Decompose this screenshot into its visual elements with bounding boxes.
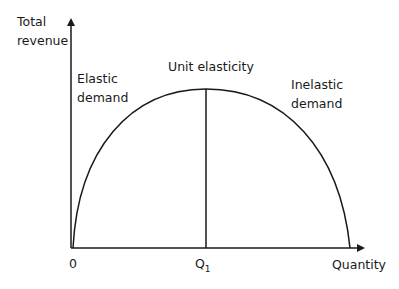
origin-label: 0: [69, 255, 77, 273]
inelastic-label-line2: demand: [291, 95, 342, 113]
q1-letter: Q: [195, 256, 205, 271]
unit-elasticity-label: Unit elasticity: [168, 58, 254, 76]
q1-label: Q1: [195, 255, 211, 278]
y-axis-label-line2: revenue: [17, 32, 68, 50]
q1-subscript: 1: [205, 264, 211, 274]
y-axis-label-line1: Total: [17, 13, 46, 31]
x-axis-label: Quantity: [332, 256, 386, 274]
elastic-label-line2: demand: [77, 89, 128, 107]
elastic-label-line1: Elastic: [77, 70, 118, 88]
inelastic-label-line1: Inelastic: [291, 76, 343, 94]
